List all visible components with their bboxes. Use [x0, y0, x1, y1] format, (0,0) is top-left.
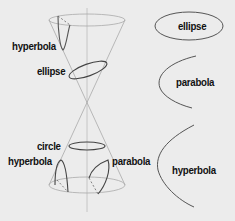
cone-ellipse: [67, 58, 109, 83]
label-ellipse: ellipse: [37, 65, 65, 77]
label-circle: circle: [37, 140, 61, 152]
top-hyperbola-dash: [58, 16, 70, 25]
top-hyperbola-curve: [58, 16, 70, 50]
bottom-hyperbola-curve: [55, 160, 68, 192]
cone-parabola-dash: [89, 178, 98, 194]
label-hyperbola-bottom: hyperbola: [8, 155, 52, 167]
label-hyperbola-curve: hyperbola: [172, 164, 216, 176]
label-parabola-cone: parabola: [112, 155, 150, 167]
conic-diagram: [0, 0, 235, 221]
label-hyperbola-top: hyperbola: [12, 40, 56, 52]
label-ellipse-curve: ellipse: [178, 20, 206, 32]
label-parabola-curve: parabola: [176, 76, 214, 88]
